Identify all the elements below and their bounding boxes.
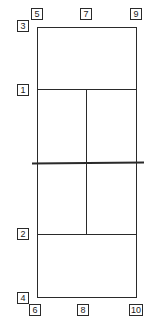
service-line-top <box>37 89 137 90</box>
label-6: 6 <box>29 304 41 316</box>
label-7: 7 <box>80 8 92 20</box>
label-4: 4 <box>17 292 29 304</box>
baseline-bottom <box>37 297 137 298</box>
net <box>32 162 144 165</box>
label-3: 3 <box>17 20 29 32</box>
label-5: 5 <box>31 8 43 20</box>
label-8: 8 <box>77 304 89 316</box>
label-10: 10 <box>129 304 143 316</box>
label-2: 2 <box>17 228 29 240</box>
label-9: 9 <box>130 8 142 20</box>
label-1: 1 <box>17 84 29 96</box>
baseline-top <box>37 27 137 28</box>
service-line-bottom <box>37 234 137 235</box>
